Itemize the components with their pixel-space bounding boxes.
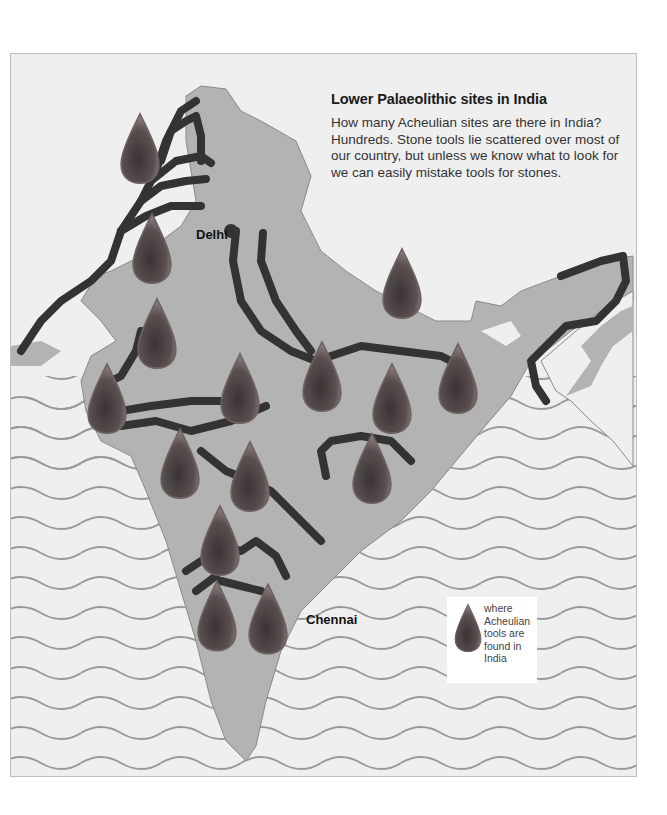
- map-info: Lower Palaeolithic sites in India How ma…: [331, 91, 631, 181]
- city-label-delhi: Delhi: [196, 227, 228, 242]
- map-description: How many Acheulian sites are there in In…: [331, 115, 631, 181]
- acheulian-tool-icon: [453, 603, 483, 653]
- legend-label: where Acheulian tools are found in India: [484, 602, 544, 665]
- map-legend: where Acheulian tools are found in India: [447, 597, 537, 683]
- map-title: Lower Palaeolithic sites in India: [331, 91, 631, 107]
- city-label-chennai: Chennai: [306, 612, 357, 627]
- acheulian-tool-icon: [121, 114, 159, 183]
- acheulian-tool-icon: [383, 249, 421, 318]
- map-frame: Lower Palaeolithic sites in India How ma…: [10, 53, 637, 777]
